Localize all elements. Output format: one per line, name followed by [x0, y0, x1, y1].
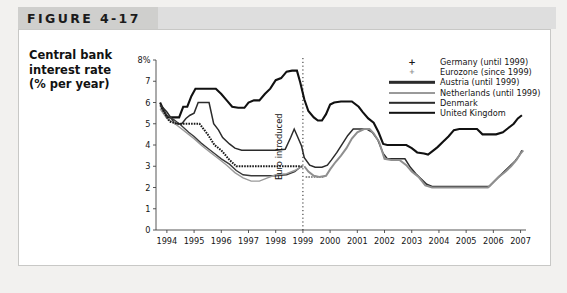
y-axis-tick-label: 7: [145, 76, 150, 86]
euro-introduced-annotation: Euro introduced: [274, 113, 284, 180]
x-axis-tick-label: 1996: [211, 236, 232, 246]
x-axis-tick-label: 2005: [456, 236, 477, 246]
x-axis-tick-label: 2002: [374, 236, 395, 246]
chart-plot-area: 012345678%199419951996199719981999200020…: [134, 52, 534, 253]
y-axis-title: Central bank interest rate (% per year): [29, 48, 137, 92]
y-axis-title-line-1: Central bank: [29, 48, 137, 63]
x-axis-tick-label: 2003: [401, 236, 422, 246]
y-axis-tick-label: 1: [145, 204, 150, 214]
figure-tab: FIGURE 4-17: [18, 7, 158, 29]
y-axis-tick-label: 3: [145, 161, 150, 171]
x-axis-tick-label: 1995: [184, 236, 205, 246]
y-axis-title-line-3: (% per year): [29, 77, 137, 92]
x-axis-tick-label: 2004: [429, 236, 450, 246]
y-axis-title-line-2: interest rate: [29, 63, 137, 78]
x-axis-tick-label: 1999: [292, 236, 313, 246]
x-axis-tick-label: 1994: [156, 236, 177, 246]
x-axis-tick-label: 2006: [483, 236, 504, 246]
x-axis-tick-label: 2007: [510, 236, 531, 246]
x-axis-tick-label: 1998: [265, 236, 286, 246]
figure-panel: Central bank interest rate (% per year) …: [18, 29, 551, 266]
y-axis-tick-label: 5: [145, 119, 150, 129]
y-axis-tick-label: 0: [145, 225, 150, 235]
y-axis-tick-label: 8%: [138, 55, 151, 65]
series-line: [160, 71, 522, 155]
figure-tab-strip: [158, 7, 556, 29]
y-axis-tick-label: 2: [145, 183, 150, 193]
x-axis-tick-label: 2001: [347, 236, 368, 246]
x-axis-tick-label: 1997: [238, 236, 259, 246]
y-axis-tick-label: 4: [145, 140, 150, 150]
figure-number-label: FIGURE 4-17: [18, 11, 141, 26]
y-axis-tick-label: 6: [145, 98, 150, 108]
x-axis-tick-label: 2000: [320, 236, 341, 246]
line-chart-svg: 012345678%199419951996199719981999200020…: [134, 52, 534, 253]
series-line: [304, 129, 523, 187]
figure-container: FIGURE 4-17 Central bank interest rate (…: [0, 0, 567, 293]
